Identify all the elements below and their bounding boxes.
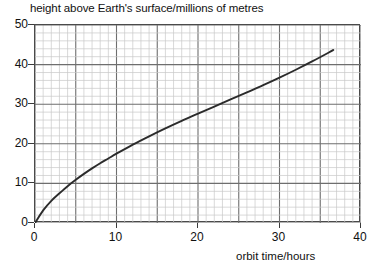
x-tick-label: 10	[101, 231, 131, 243]
x-tick-mark	[279, 223, 280, 228]
x-tick-mark	[360, 223, 361, 228]
y-tick-label: 20	[2, 137, 28, 149]
y-tick-mark	[28, 182, 34, 183]
y-tick-mark	[28, 103, 34, 104]
y-tick-label: 40	[2, 58, 28, 70]
x-tick-label: 30	[264, 231, 294, 243]
x-tick-mark	[116, 223, 117, 228]
x-tick-label: 20	[182, 231, 212, 243]
y-tick-mark	[28, 143, 34, 144]
y-axis-title: height above Earth's surface/millions of…	[30, 2, 263, 14]
x-tick-label: 40	[345, 231, 375, 243]
y-tick-mark	[28, 64, 34, 65]
y-tick-label: 0	[2, 216, 28, 228]
y-tick-label: 50	[2, 18, 28, 30]
x-tick-mark	[197, 223, 198, 228]
y-tick-label: 30	[2, 97, 28, 109]
plot-area	[34, 24, 360, 222]
x-tick-mark	[34, 223, 35, 228]
chart-container: height above Earth's surface/millions of…	[0, 0, 382, 271]
x-axis-title: orbit time/hours	[236, 250, 315, 262]
y-tick-mark	[28, 24, 34, 25]
x-tick-label: 0	[19, 231, 49, 243]
y-tick-label: 10	[2, 176, 28, 188]
data-curve	[35, 25, 361, 223]
